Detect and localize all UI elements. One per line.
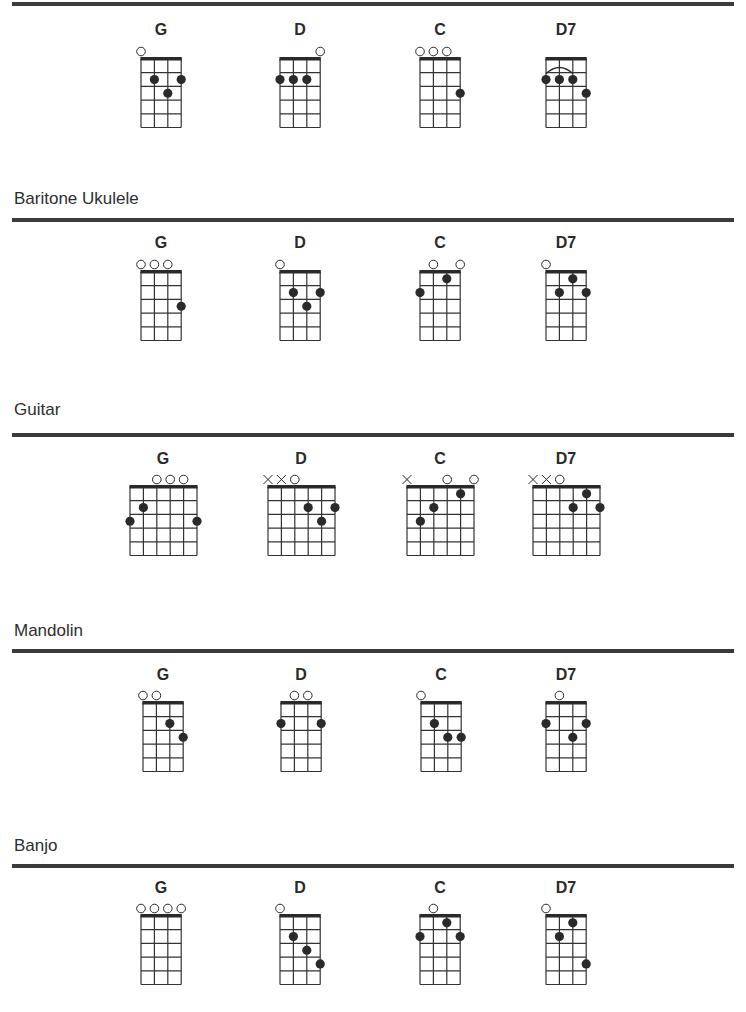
open-string-icon [276, 904, 285, 913]
finger-dot-icon [125, 517, 134, 526]
muted-string-icon [402, 475, 411, 484]
open-string-icon [469, 475, 478, 484]
finger-dot-icon [192, 517, 201, 526]
finger-dot-icon [302, 75, 311, 84]
chord-diagram-g [133, 683, 193, 782]
finger-dot-icon [138, 503, 147, 512]
finger-dot-icon [568, 733, 577, 742]
chord-name: C [400, 879, 480, 897]
finger-dot-icon [415, 517, 424, 526]
finger-dot-icon [315, 959, 324, 968]
open-string-icon [165, 475, 174, 484]
finger-dot-icon [568, 503, 577, 512]
chord-diagram-d [258, 467, 345, 566]
chord-diagram-d7 [523, 467, 610, 566]
finger-dot-icon [582, 489, 591, 498]
finger-dot-icon [568, 75, 577, 84]
finger-dot-icon [302, 946, 311, 955]
finger-dot-icon [178, 733, 187, 742]
chord-name: C [400, 21, 480, 39]
finger-dot-icon [541, 75, 550, 84]
chord-diagram-c [410, 896, 470, 995]
open-string-icon [163, 260, 172, 269]
finger-dot-icon [289, 75, 298, 84]
finger-dot-icon [289, 932, 298, 941]
chord-name: G [121, 234, 201, 252]
chord-name: D7 [526, 21, 606, 39]
open-string-icon [456, 260, 465, 269]
finger-dot-icon [443, 733, 452, 742]
finger-dot-icon [456, 733, 465, 742]
finger-dot-icon [302, 302, 311, 311]
open-string-icon [179, 475, 188, 484]
finger-dot-icon [568, 274, 577, 283]
open-string-icon [276, 260, 285, 269]
finger-dot-icon [315, 288, 324, 297]
finger-dot-icon [581, 959, 590, 968]
finger-dot-icon [150, 75, 159, 84]
open-string-icon [290, 691, 299, 700]
chord-name: G [121, 879, 201, 897]
chord-diagram-d7 [536, 39, 596, 138]
finger-dot-icon [595, 503, 604, 512]
chord-diagram-c [410, 252, 470, 351]
chord-name: D [260, 21, 340, 39]
finger-dot-icon [415, 932, 424, 941]
finger-dot-icon [455, 932, 464, 941]
open-string-icon [417, 691, 426, 700]
open-string-icon [542, 260, 551, 269]
section-title: Guitar [14, 400, 60, 420]
finger-dot-icon [568, 918, 577, 927]
chord-name: D7 [526, 234, 606, 252]
chord-diagram-g [131, 252, 191, 351]
open-string-icon [152, 691, 161, 700]
open-string-icon [416, 47, 425, 56]
section-title: Mandolin [14, 621, 83, 641]
finger-dot-icon [555, 75, 564, 84]
open-string-icon [442, 475, 451, 484]
chord-diagram-d [270, 39, 330, 138]
finger-dot-icon [541, 719, 550, 728]
finger-dot-icon [581, 89, 590, 98]
finger-dot-icon [581, 288, 590, 297]
open-string-icon [150, 260, 159, 269]
open-string-icon [429, 47, 438, 56]
chord-diagram-d7 [536, 252, 596, 351]
finger-dot-icon [316, 719, 325, 728]
open-string-icon [137, 47, 146, 56]
open-string-icon [163, 904, 172, 913]
section-divider [12, 433, 734, 437]
open-string-icon [303, 691, 312, 700]
muted-string-icon [541, 475, 550, 484]
finger-dot-icon [303, 503, 312, 512]
open-string-icon [177, 904, 186, 913]
open-string-icon [429, 904, 438, 913]
finger-dot-icon [555, 932, 564, 941]
finger-dot-icon [415, 288, 424, 297]
finger-dot-icon [276, 719, 285, 728]
chord-name: C [401, 666, 481, 684]
finger-dot-icon [289, 288, 298, 297]
finger-dot-icon [430, 719, 439, 728]
chord-diagram-g [131, 39, 191, 138]
open-string-icon [555, 691, 564, 700]
finger-dot-icon [429, 503, 438, 512]
finger-dot-icon [581, 719, 590, 728]
chord-diagram-c [411, 683, 471, 782]
finger-dot-icon [455, 89, 464, 98]
finger-dot-icon [442, 918, 451, 927]
chord-diagram-d [270, 896, 330, 995]
section-divider [12, 2, 734, 6]
finger-dot-icon [442, 274, 451, 283]
chord-name: C [400, 450, 480, 468]
muted-string-icon [263, 475, 272, 484]
chord-name: D7 [526, 879, 606, 897]
finger-dot-icon [176, 302, 185, 311]
chord-name: D [260, 879, 340, 897]
chord-diagram-d7 [536, 683, 596, 782]
chord-diagram-d [271, 683, 331, 782]
open-string-icon [542, 904, 551, 913]
chord-diagram-c [397, 467, 484, 566]
finger-dot-icon [176, 75, 185, 84]
muted-string-icon [528, 475, 537, 484]
